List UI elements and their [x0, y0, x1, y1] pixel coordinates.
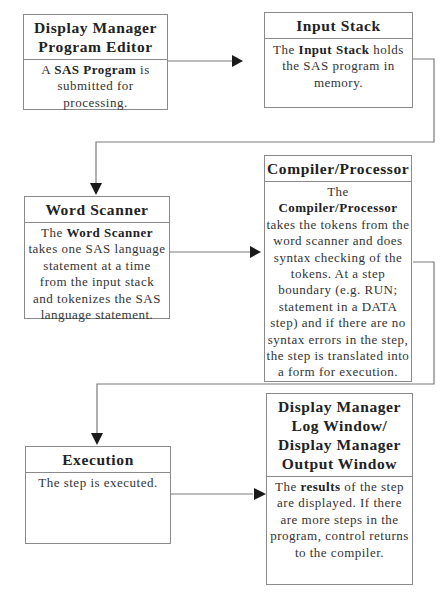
box-title: Input Stack [265, 13, 412, 39]
box-title-line: Compiler/Processor [267, 159, 409, 178]
box-description: The step is executed. [26, 473, 170, 493]
box-title-line: Word Scanner [27, 200, 167, 219]
text-run-bold: Word Scanner [66, 225, 153, 240]
box-description: A SAS Program is submitted for processin… [24, 60, 167, 113]
text-run-bold: Compiler/Processor [278, 200, 397, 215]
box-input-stack: Input Stack The Input Stack holds the SA… [264, 12, 413, 108]
box-display-manager-program-editor: Display Manager Program Editor A SAS Pro… [23, 14, 168, 110]
box-title-line: Execution [28, 450, 168, 469]
text-run: The [41, 225, 66, 240]
box-title-line: Input Stack [267, 16, 410, 35]
box-title: Word Scanner [25, 197, 169, 223]
box-description: The Compiler/Processor takes the tokens … [265, 182, 411, 383]
arrowhead-word-scanner [90, 183, 102, 195]
text-run: A [41, 62, 54, 77]
text-run: The step is executed. [38, 475, 158, 490]
box-display-manager-log-output-window: Display Manager Log Window/ Display Mana… [266, 393, 413, 585]
box-title-line: Log Window/ [269, 416, 410, 435]
box-title: Execution [26, 447, 170, 473]
box-title: Display Manager Log Window/ Display Mana… [267, 394, 412, 477]
box-description: The Word Scanner takes one SAS language … [25, 223, 169, 325]
text-run-bold: SAS Program [54, 62, 136, 77]
box-word-scanner: Word Scanner The Word Scanner takes one … [24, 196, 170, 319]
arrowhead-input-stack [232, 55, 243, 67]
box-title-line: Display Manager [269, 435, 410, 454]
box-title-line: Display Manager [269, 397, 410, 416]
box-execution: Execution The step is executed. [25, 446, 171, 544]
text-run: takes the tokens from the word scanner a… [266, 217, 409, 380]
box-title: Display Manager Program Editor [24, 15, 167, 60]
text-run: The [275, 479, 300, 494]
text-run-bold: Input Stack [299, 42, 370, 57]
box-description: The results of the step are displayed. I… [267, 477, 412, 563]
text-run: The [273, 42, 298, 57]
arrowhead-execution [91, 433, 103, 445]
text-run: takes one SAS language statement at a ti… [28, 241, 165, 322]
text-run: The [327, 184, 349, 199]
box-description: The Input Stack holds the SAS program in… [265, 39, 412, 94]
box-title-line: Display Manager [26, 18, 165, 37]
box-title: Compiler/Processor [265, 156, 411, 182]
box-compiler-processor: Compiler/Processor The Compiler/Processo… [264, 155, 412, 382]
arrowhead-results [254, 488, 266, 500]
arrowhead-compiler [250, 246, 261, 258]
box-title-line: Program Editor [26, 37, 165, 56]
text-run-bold: results [300, 479, 340, 494]
box-title-line: Output Window [269, 454, 410, 473]
